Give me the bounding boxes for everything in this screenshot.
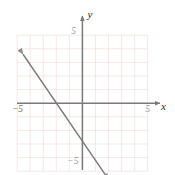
x-axis-label: x bbox=[160, 100, 166, 112]
y-tick-label-positive-5: 5 bbox=[71, 26, 76, 36]
y-axis-label: y bbox=[87, 8, 93, 20]
y-tick-label-negative-5: −5 bbox=[67, 156, 78, 166]
axes bbox=[17, 16, 160, 170]
coordinate-plane-svg: x y −5 5 5 −5 bbox=[0, 0, 175, 175]
graph-figure: x y −5 5 5 −5 bbox=[0, 0, 175, 175]
x-tick-label-positive-5: 5 bbox=[145, 104, 150, 114]
x-tick-label-negative-5: −5 bbox=[12, 104, 23, 114]
